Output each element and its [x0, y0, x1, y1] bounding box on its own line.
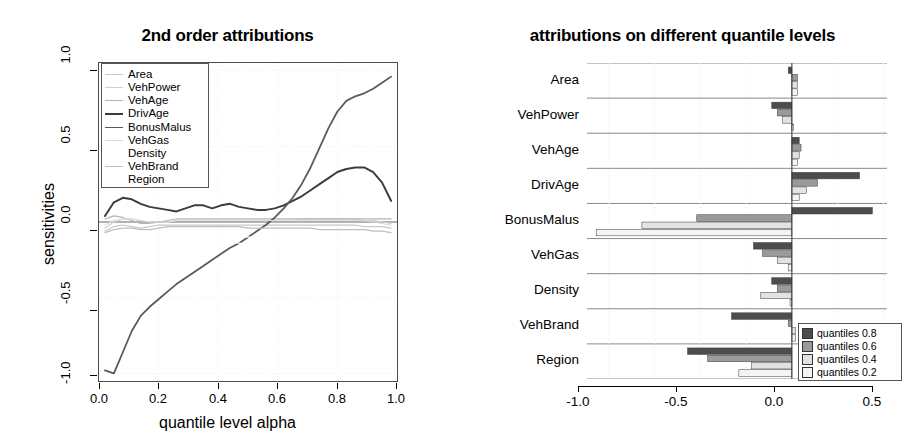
left-legend-item: Density	[105, 147, 205, 160]
right-bar	[792, 145, 801, 152]
right-bar	[732, 313, 792, 320]
right-bar	[642, 222, 792, 229]
right-bar	[596, 229, 792, 236]
right-x-tick-3: 0.5	[849, 394, 895, 409]
left-legend-label: Area	[128, 69, 152, 81]
left-legend-item: DrivAge	[105, 108, 205, 121]
left-legend-line-swatch	[105, 100, 123, 101]
left-x-tick-4: 0.8	[317, 391, 357, 406]
right-bar	[763, 250, 792, 257]
left-legend-label: VehAge	[128, 95, 168, 107]
right-bar	[688, 348, 792, 355]
left-legend-line-swatch	[105, 140, 123, 141]
left-x-tickmark-1	[158, 383, 159, 389]
right-bar	[792, 74, 797, 81]
right-legend-label: quantiles 0.4	[817, 354, 877, 365]
left-legend-label: VehPower	[128, 82, 180, 94]
left-y-tick-2: 0.0	[58, 206, 73, 240]
right-bar	[792, 207, 872, 214]
left-chart-legend: AreaVehPowerVehAgeDrivAgeBonusMalusVehGa…	[101, 63, 209, 188]
left-chart-panel: 2nd order attributions sensitivities 1.0…	[0, 0, 455, 448]
left-legend-label: VehBrand	[128, 161, 179, 173]
right-legend-item: quantiles 0.6	[802, 340, 898, 353]
left-legend-item: BonusMalus	[105, 121, 205, 134]
left-legend-label: DrivAge	[128, 108, 169, 120]
right-bar	[783, 117, 792, 124]
right-bar	[739, 370, 792, 377]
right-category-label-vehbrand: VehBrand	[457, 317, 579, 332]
right-bar	[777, 109, 792, 116]
left-x-tick-0: 0.0	[79, 391, 119, 406]
right-bar	[792, 82, 797, 89]
left-legend-line-swatch	[105, 153, 123, 154]
right-bar	[788, 264, 792, 271]
right-bar	[752, 362, 792, 369]
left-chart-title: 2nd order attributions	[0, 26, 455, 46]
left-legend-label: Region	[128, 174, 164, 186]
right-bar	[777, 285, 792, 292]
left-x-axis-label: quantile level alpha	[0, 414, 455, 432]
left-y-tickmark-2	[90, 230, 97, 231]
right-category-label-vehgas: VehGas	[457, 247, 579, 262]
left-legend-label: BonusMalus	[128, 122, 191, 134]
left-legend-label: Density	[128, 148, 166, 160]
right-bar	[792, 327, 796, 334]
left-x-tick-2: 0.4	[198, 391, 238, 406]
right-category-label-region: Region	[457, 352, 579, 367]
right-bar	[792, 137, 799, 144]
left-legend-line-swatch	[105, 166, 123, 167]
right-bar	[792, 194, 799, 201]
right-category-label-area: Area	[457, 72, 579, 87]
left-x-tickmark-4	[337, 383, 338, 389]
right-x-tick-2: 0.0	[751, 394, 797, 409]
right-legend-color-swatch	[802, 354, 813, 365]
right-bar	[792, 180, 818, 187]
left-x-tickmark-3	[277, 383, 278, 389]
right-legend-color-swatch	[802, 367, 813, 378]
right-bar	[792, 89, 797, 96]
left-legend-line-swatch	[105, 87, 123, 88]
right-bar	[708, 355, 792, 362]
right-legend-item: quantiles 0.4	[802, 353, 898, 366]
right-bar	[792, 187, 807, 194]
right-category-label-vehpower: VehPower	[457, 107, 579, 122]
left-legend-line-swatch	[105, 180, 123, 181]
figure-root: 2nd order attributions sensitivities 1.0…	[0, 0, 910, 448]
left-legend-line-swatch	[105, 127, 123, 128]
right-legend-color-swatch	[802, 328, 813, 339]
left-legend-line-swatch	[105, 74, 123, 75]
right-legend-color-swatch	[802, 341, 813, 352]
left-x-tickmark-0	[99, 383, 100, 389]
right-bar	[772, 278, 792, 285]
right-legend-label: quantiles 0.8	[817, 328, 877, 339]
right-x-tick-1: -0.5	[653, 394, 699, 409]
right-chart-legend: quantiles 0.8quantiles 0.6quantiles 0.4q…	[798, 323, 902, 381]
left-legend-item: Area	[105, 68, 205, 81]
left-x-tick-3: 0.6	[257, 391, 297, 406]
left-legend-item: Region	[105, 174, 205, 187]
right-legend-item: quantiles 0.2	[802, 366, 898, 379]
right-category-label-drivage: DrivAge	[457, 177, 579, 192]
right-legend-label: quantiles 0.2	[817, 367, 877, 378]
left-y-axis-label: sensitivities	[40, 183, 58, 265]
left-x-tick-5: 1.0	[376, 391, 416, 406]
left-legend-item: VehAge	[105, 94, 205, 107]
left-legend-label: VehGas	[128, 135, 169, 147]
right-chart-title: attributions on different quantile level…	[455, 26, 910, 46]
right-bar	[753, 243, 791, 250]
right-bar	[788, 67, 792, 74]
left-legend-line-swatch	[105, 113, 123, 115]
right-bar	[697, 215, 792, 222]
left-x-tickmark-2	[218, 383, 219, 389]
left-y-tickmark-4	[90, 375, 97, 376]
left-y-tickmark-1	[90, 150, 97, 151]
right-bar	[792, 159, 797, 166]
left-legend-item: VehPower	[105, 81, 205, 94]
right-bar	[788, 320, 792, 327]
left-y-tick-4: -1.0	[58, 362, 73, 404]
right-x-axis-line	[578, 386, 873, 387]
right-legend-item: quantiles 0.8	[802, 327, 898, 340]
right-bar	[792, 152, 799, 159]
right-bar	[777, 257, 792, 264]
left-y-tick-3: -0.5	[58, 282, 73, 324]
